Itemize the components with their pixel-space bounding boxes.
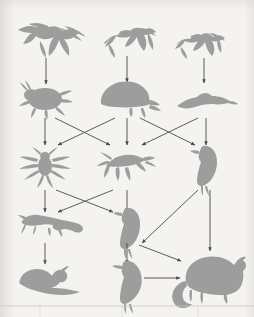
spider-silhouette <box>19 147 71 188</box>
edge-bird-upper-to-bird-middle <box>142 190 198 243</box>
rodent-silhouette <box>172 256 246 308</box>
edge-caterpillar-to-mantis <box>142 118 198 145</box>
edge-bird-middle-to-rodent <box>139 245 181 261</box>
bird-middle-silhouette <box>113 208 140 259</box>
plant-foliage-right-silhouette <box>175 33 225 59</box>
lizard-silhouette <box>18 215 83 237</box>
edge-leaf-insect-to-bird-upper <box>140 118 195 145</box>
bird-upper-silhouette <box>190 146 217 196</box>
leaf-insect-silhouette <box>101 82 161 118</box>
level-1-producers <box>18 23 225 59</box>
level-3-secondary-consumers <box>19 146 217 196</box>
edge-beetle-to-mantis <box>55 118 110 145</box>
level-5-top-consumers <box>19 256 246 314</box>
plant-foliage-left-silhouette <box>18 23 86 58</box>
food-web-canvas <box>0 0 254 317</box>
caterpillar-silhouette <box>177 93 238 108</box>
level-2-primary-consumers <box>19 80 238 120</box>
edges-level1-to-level2 <box>46 56 204 84</box>
edge-leaf-insect-to-spider <box>58 118 115 145</box>
beetle-silhouette <box>19 80 73 120</box>
snake-silhouette <box>19 266 80 295</box>
mantis-silhouette <box>97 152 156 181</box>
edges-level2-to-level3 <box>45 118 206 145</box>
level-4-tertiary-consumers <box>18 208 140 259</box>
page-bottom-rule <box>0 306 254 317</box>
food-web-figure <box>0 0 254 317</box>
plant-foliage-center-silhouette <box>104 28 156 58</box>
